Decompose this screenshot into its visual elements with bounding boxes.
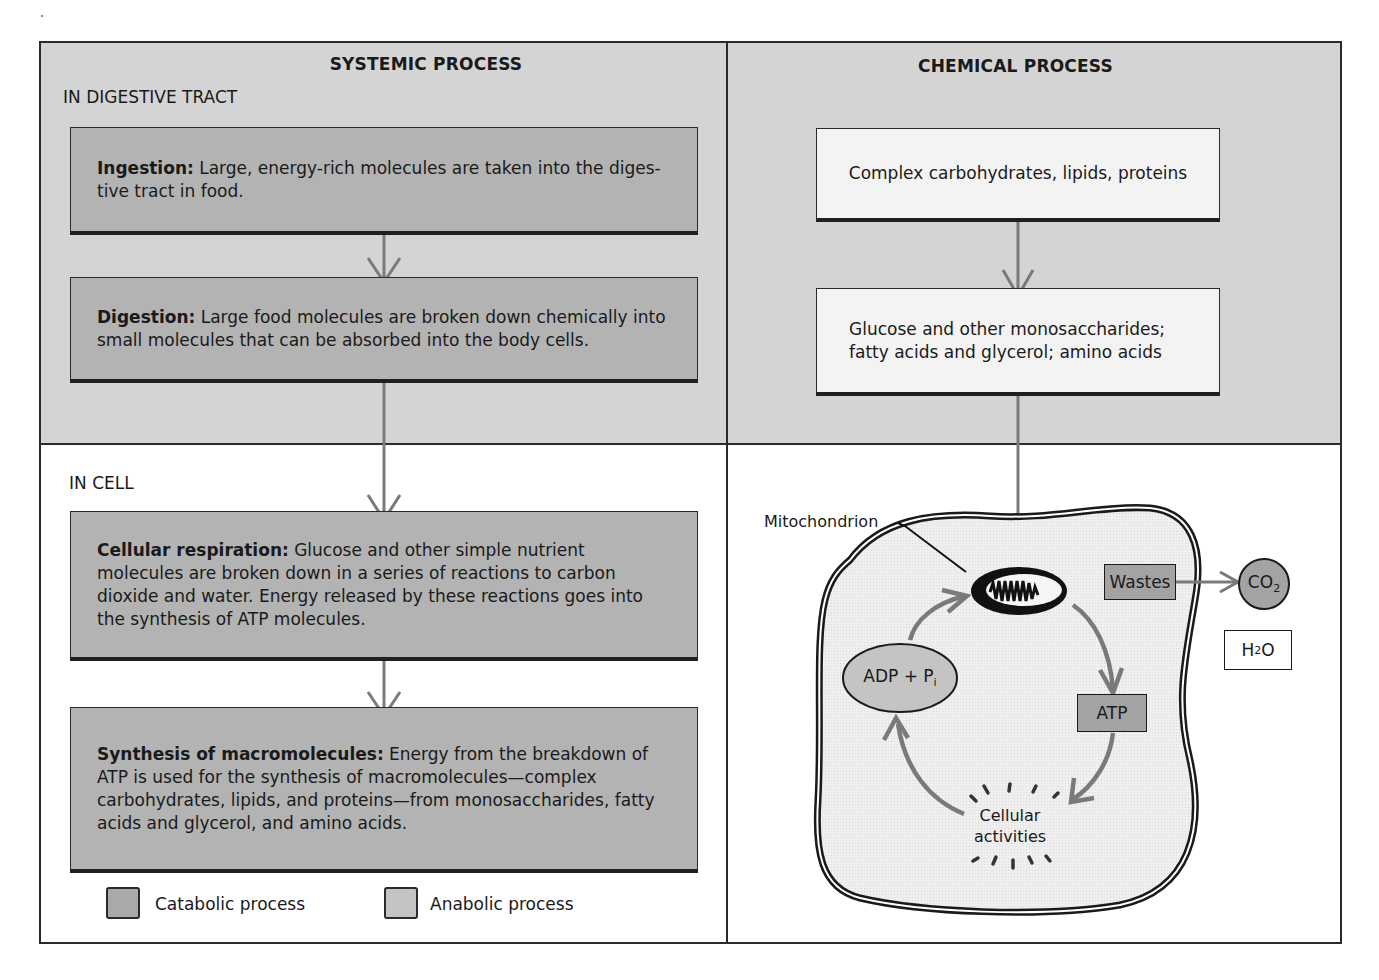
legend-label-anabolic: Anabolic process [430, 894, 574, 914]
simple-molecules-line2: fatty acids and glycerol; amino acids [849, 341, 1165, 364]
co2-subscript: 2 [1273, 582, 1280, 595]
complex-molecules-text: Complex carbohydrates, lipids, proteins [849, 162, 1187, 185]
step-term: Cellular respiration: [97, 540, 289, 560]
co2-label: CO2 [1239, 572, 1289, 595]
complex-molecules-box: Complex carbohydrates, lipids, proteins [816, 128, 1220, 222]
step-term: Ingestion: [97, 158, 194, 178]
mitochondrion-icon [971, 567, 1067, 615]
cellular-activities-line2: activities [960, 826, 1060, 847]
simple-molecules-box: Glucose and other monosaccharides; fatty… [816, 288, 1220, 396]
cellular-activities-line1: Cellular [960, 805, 1060, 826]
wastes-box: Wastes [1104, 564, 1176, 600]
simple-molecules-line1: Glucose and other monosaccharides; [849, 318, 1165, 341]
legend-swatch-anabolic [384, 887, 418, 919]
adp-label: ADP + Pi [843, 666, 957, 689]
h2o-h: H [1241, 640, 1254, 660]
step-term: Digestion: [97, 307, 195, 327]
atp-box: ATP [1077, 694, 1147, 732]
h2o-o: O [1261, 640, 1274, 660]
step-synthesis-of-macromolecules: Synthesis of macromolecules: Energy from… [70, 707, 698, 873]
co2-main: CO [1248, 572, 1273, 592]
legend-swatch-catabolic [106, 887, 140, 919]
step-term: Synthesis of macromolecules: [97, 744, 384, 764]
legend-label-catabolic: Catabolic process [155, 894, 305, 914]
wastes-label: Wastes [1110, 572, 1171, 592]
step-digestion: Digestion: Large food molecules are brok… [70, 277, 698, 383]
atp-label: ATP [1097, 703, 1128, 723]
cellular-activities-label: Cellular activities [960, 805, 1060, 847]
h2o-subscript: 2 [1254, 644, 1261, 657]
step-cellular-respiration: Cellular respiration: Glucose and other … [70, 511, 698, 661]
adp-subscript: i [934, 676, 937, 689]
adp-main: ADP + P [863, 666, 933, 686]
mitochondrion-label: Mitochondrion [764, 512, 878, 531]
step-ingestion: Ingestion: Large, energy-rich molecules … [70, 127, 698, 235]
h2o-box: H2O [1224, 630, 1292, 670]
